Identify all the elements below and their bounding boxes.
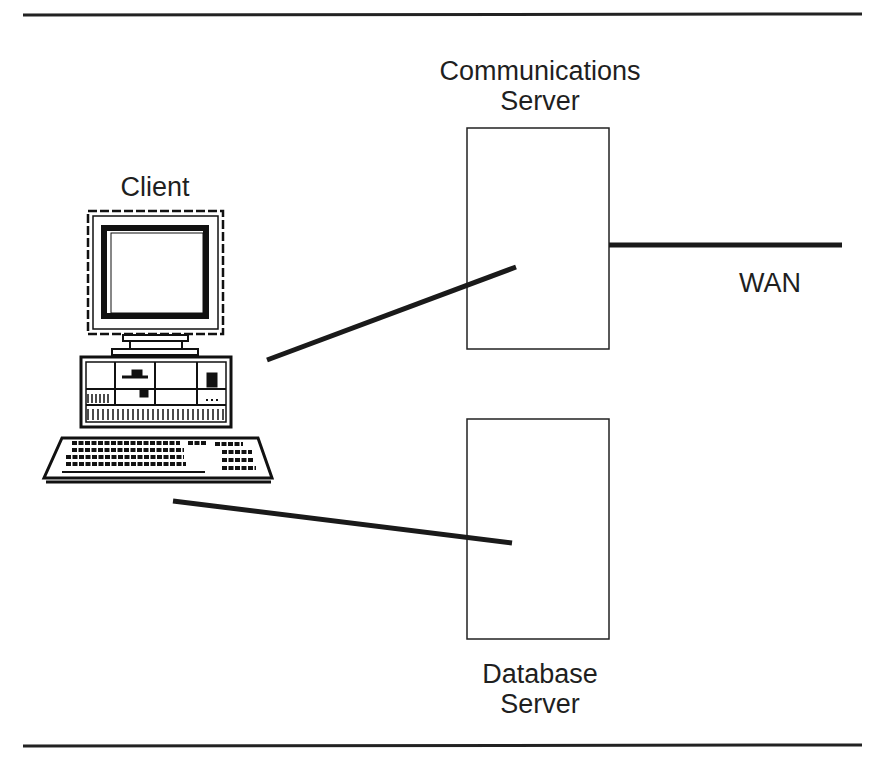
client-db-link [173,501,512,543]
database-server-label: Database Server [460,659,620,719]
communications-server-box[interactable] [467,128,609,349]
client-comm-link [267,267,516,360]
desktop-computer-icon [44,211,272,482]
communications-server-label: Communications Server [400,56,680,116]
database-server-box[interactable] [467,419,609,639]
bottom-rule [23,745,862,746]
database-server-label-line1: Database [460,659,620,689]
database-server-label-line2: Server [460,689,620,719]
top-rule [23,14,862,15]
wan-label: WAN [715,268,825,298]
client-label: Client [90,172,220,202]
communications-server-label-line2: Server [400,86,680,116]
communications-server-label-line1: Communications [400,56,680,86]
